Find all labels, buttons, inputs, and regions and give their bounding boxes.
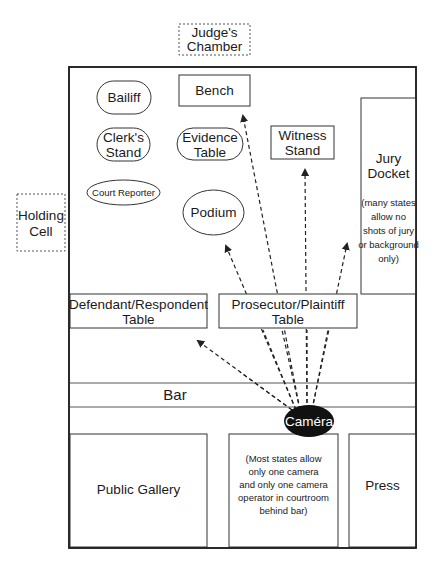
prosecutor-table-label-1: Prosecutor/Plaintiff — [231, 297, 344, 312]
jury-docket-note: or background — [358, 239, 419, 250]
camera-note: (Most states allow — [245, 453, 321, 464]
witness-stand: Witness Stand — [271, 126, 334, 159]
press: Press — [349, 434, 416, 547]
witness-stand-label-1: Witness — [278, 128, 326, 143]
defendant-table-label-1: Defendant/Respondent — [69, 297, 208, 312]
bar-label: Bar — [163, 386, 186, 403]
judges-chamber: Judge's Chamber — [179, 24, 250, 55]
public-gallery-label: Public Gallery — [97, 482, 181, 497]
jury-docket: Jury Docket (many states allow no shots … — [358, 98, 419, 294]
evidence-table: Evidence Table — [177, 128, 243, 160]
evidence-table-label-1: Evidence — [182, 130, 238, 145]
bench: Bench — [179, 75, 250, 106]
bailiff: Bailiff — [97, 81, 151, 114]
holding-cell: Holding Cell — [17, 194, 65, 251]
public-gallery: Public Gallery — [70, 434, 207, 547]
camera-note: and only one camera — [239, 479, 328, 490]
press-label: Press — [365, 478, 400, 493]
prosecutor-table: Prosecutor/Plaintiff Table — [219, 294, 357, 328]
camera-note: behind bar) — [259, 505, 307, 516]
jury-docket-note: shots of jury — [363, 225, 414, 236]
jury-docket-note: allow no — [371, 211, 406, 222]
camera: Caméra — [284, 405, 334, 437]
witness-stand-label-2: Stand — [285, 143, 320, 158]
camera-note: operator in courtroom — [238, 492, 329, 503]
jury-docket-note: (many states — [361, 197, 416, 208]
camera-note: only one camera — [248, 466, 319, 477]
judges-chamber-label-1: Judge's — [191, 25, 237, 40]
jury-docket-label-1: Jury — [376, 151, 402, 166]
clerks-stand: Clerk's Stand — [97, 128, 150, 161]
holding-cell-label-2: Cell — [29, 224, 52, 239]
sightline-lower-segments — [240, 330, 328, 410]
judges-chamber-label-2: Chamber — [187, 39, 243, 54]
defendant-table-label-2: Table — [122, 312, 154, 327]
podium: Podium — [183, 190, 244, 235]
evidence-table-label-2: Table — [194, 145, 226, 160]
holding-cell-label-1: Holding — [18, 208, 64, 223]
clerks-stand-label-1: Clerk's — [103, 130, 144, 145]
bench-label: Bench — [195, 83, 233, 98]
courtroom-diagram: Judge's Chamber Holding Cell Bench Baili… — [0, 0, 435, 564]
camera-area: (Most states allow only one camera and o… — [229, 434, 338, 547]
bailiff-label: Bailiff — [108, 90, 141, 105]
prosecutor-table-label-2: Table — [272, 312, 304, 327]
bar: Bar — [69, 383, 416, 407]
jury-docket-label-2: Docket — [367, 166, 409, 181]
clerks-stand-label-2: Stand — [106, 145, 141, 160]
court-reporter-label: Court Reporter — [92, 187, 155, 198]
jury-docket-note: only) — [378, 253, 399, 264]
podium-label: Podium — [191, 205, 237, 220]
sightline-bench-arrow-icon — [243, 116, 300, 410]
defendant-table: Defendant/Respondent Table — [69, 294, 208, 328]
camera-label: Caméra — [285, 414, 334, 429]
court-reporter: Court Reporter — [87, 180, 160, 205]
